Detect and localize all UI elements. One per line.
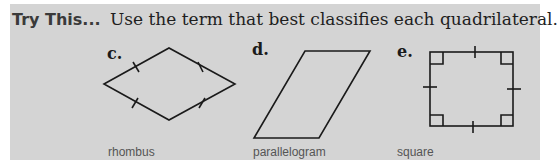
answer-d: parallelogram (253, 145, 326, 159)
square-figure (423, 46, 521, 133)
rhombus-figure (104, 48, 235, 120)
answer-e: square (397, 145, 434, 159)
answer-c: rhombus (108, 145, 155, 159)
parallelogram-figure (254, 51, 370, 138)
